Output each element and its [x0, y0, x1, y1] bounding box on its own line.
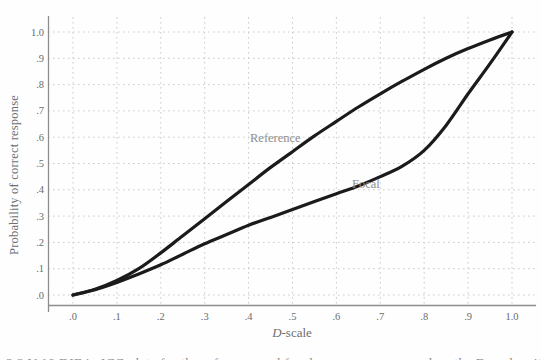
reference-curve-label: Reference — [250, 131, 301, 146]
y-tick-label: .2 — [12, 236, 44, 249]
y-tick-label: .1 — [12, 262, 44, 275]
y-tick-label: .4 — [12, 183, 44, 196]
y-axis-title: Probability of correct response — [5, 25, 23, 325]
y-tick-label: .5 — [12, 157, 44, 170]
focal-curve-label: Focal — [352, 177, 380, 192]
x-axis-title-rest: -scale — [282, 325, 312, 340]
x-tick-label: .7 — [363, 311, 397, 323]
x-tick-label: 1.0 — [495, 311, 529, 323]
y-tick-label: .6 — [12, 131, 44, 144]
y-tick-label: .3 — [12, 210, 44, 223]
x-tick-label: .3 — [188, 311, 222, 323]
x-tick-label: .6 — [319, 311, 353, 323]
clipped-caption: 2.3 V:10 DIF in ICC plots for the refere… — [0, 351, 542, 360]
x-tick-label: .5 — [276, 311, 310, 323]
clipped-caption-text: 2.3 V:10 DIF in ICC plots for the refere… — [6, 355, 542, 360]
x-tick-label: .1 — [100, 311, 134, 323]
x-axis-title-italic-d: D — [272, 325, 281, 340]
y-tick-label: 1.0 — [12, 26, 44, 39]
y-tick-label: .9 — [12, 52, 44, 65]
x-tick-label: .4 — [232, 311, 266, 323]
x-tick-label: .9 — [451, 311, 485, 323]
x-tick-label: .2 — [144, 311, 178, 323]
y-tick-label: .7 — [12, 104, 44, 117]
x-tick-label: .8 — [407, 311, 441, 323]
dif-icc-figure: Probability of correct response D-scale … — [0, 0, 542, 360]
y-tick-label: .0 — [12, 289, 44, 302]
y-tick-label: .8 — [12, 78, 44, 91]
chart-canvas — [0, 0, 542, 360]
x-axis-title: D-scale — [232, 325, 352, 341]
x-tick-label: .0 — [56, 311, 90, 323]
